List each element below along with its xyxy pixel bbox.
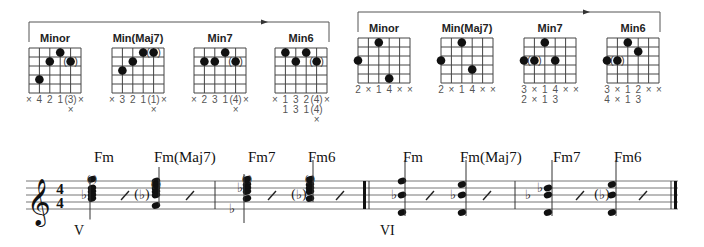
finger-dot: [354, 56, 363, 65]
music-staff: 𝄞44FmFm(Maj7)Fm7Fm6FmFm(Maj7)Fm7Fm6VVI( …: [26, 149, 678, 238]
double-barline: [363, 181, 366, 209]
flat-icon: ♭: [450, 187, 456, 202]
finger-dot: [634, 47, 643, 56]
svg-text:): ): [538, 54, 542, 66]
diagram-title: Min(Maj7): [113, 32, 164, 44]
finger-dot: [129, 57, 138, 66]
fingering-label: 1: [376, 84, 382, 95]
svg-text:): ): [74, 55, 78, 67]
diagram-title: Min6: [288, 32, 313, 44]
fingering-label: ×: [490, 84, 496, 95]
fingering-label: ×: [161, 94, 167, 105]
fingering-label: 3: [293, 104, 299, 115]
finger-dot: [551, 56, 560, 65]
fingering-label: ×: [656, 84, 662, 95]
bracket-1: [29, 20, 329, 43]
svg-text:(: (: [610, 54, 614, 66]
fingering-label: 2: [202, 94, 208, 105]
finger-dot: [375, 38, 384, 47]
svg-text:): ): [621, 54, 625, 66]
finger-dot: [541, 38, 550, 47]
fingering-label: 1: [222, 94, 228, 105]
chord-diagram-min6: Min6()3×12××4×13: [603, 22, 662, 105]
svg-text:): ): [239, 55, 243, 67]
svg-text:): ): [157, 46, 161, 58]
chord-symbol: Fm: [94, 149, 114, 165]
fingering-label: 3: [635, 94, 641, 105]
fingering-label: 4: [469, 84, 475, 95]
finger-dot: [292, 57, 301, 66]
fingering-label: ×: [531, 94, 537, 105]
fingering-label: ×: [233, 104, 239, 115]
fingering-label: ×: [26, 94, 32, 105]
svg-text:(: (: [309, 55, 313, 67]
svg-text:( ): ( ): [151, 177, 161, 190]
chord-diagram-minor: Minor2×14××: [354, 22, 413, 95]
fingering-label: 3: [552, 94, 558, 105]
finger-dot: [624, 38, 633, 47]
fingering-label: ×: [614, 94, 620, 105]
flat-icon: (♭): [594, 187, 610, 202]
fingering-label: 4: [604, 94, 610, 105]
fingering-label: 2: [47, 94, 53, 105]
fingering-label: ×: [563, 84, 569, 95]
bracket-2: [358, 10, 660, 33]
fingering-label: 1: [459, 84, 465, 95]
svg-text:(: (: [527, 54, 531, 66]
fingering-label: ×: [646, 84, 652, 95]
flat-icon: (♭): [134, 187, 150, 202]
fingering-label: 1: [283, 104, 289, 115]
chord-symbol: Fm7: [553, 149, 581, 165]
finger-dot: [281, 48, 290, 57]
chord-chart: Minor()×421(3)××Min(Maj7)()×321(1)××Min7…: [0, 0, 704, 247]
arrow-right-icon: [261, 20, 268, 25]
flat-icon: ♭: [537, 180, 543, 195]
fingering-label: 1: [57, 94, 63, 105]
finger-dot: [468, 65, 477, 74]
chord-symbol: Fm6: [308, 149, 336, 165]
flat-icon: ♭: [237, 180, 243, 195]
chord-symbol: Fm(Maj7): [460, 149, 522, 166]
flat-icon: ♭: [229, 201, 235, 216]
fingering-label: 1: [542, 94, 548, 105]
svg-text:(: (: [63, 55, 67, 67]
chord-diagram-minor: Minor()×421(3)××: [26, 32, 84, 115]
fingering-label: 1: [140, 94, 146, 105]
diagram-title: Minor: [40, 32, 71, 44]
finger-dot: [118, 66, 127, 75]
position-label: V: [74, 223, 84, 238]
fingering-label: 4: [386, 84, 392, 95]
fingering-label: ×: [68, 104, 74, 115]
fingering-label: ×: [272, 94, 278, 105]
diagram-title: Min7: [537, 22, 562, 34]
svg-text:( ): ( ): [305, 172, 315, 185]
chord-symbol: Fm(Maj7): [154, 149, 216, 166]
position-label: VI: [380, 223, 395, 238]
fingering-label: ×: [243, 94, 249, 105]
svg-text:(: (: [228, 55, 232, 67]
fingering-label: ×: [78, 94, 84, 105]
fingering-label: 2: [521, 94, 527, 105]
svg-text:): ): [320, 55, 324, 67]
fingering-label: 1: [625, 94, 631, 105]
chord-symbol: Fm7: [248, 149, 276, 165]
fingering-label: ×: [191, 94, 197, 105]
fingering-label: 4: [37, 94, 43, 105]
flat-icon: (♭): [291, 187, 307, 202]
svg-text:( ): ( ): [87, 172, 97, 185]
fingering-label: 1: [303, 104, 309, 115]
chord-symbol: Fm: [403, 149, 423, 165]
diagram-title: Minor: [369, 22, 400, 34]
treble-clef-icon: 𝄞: [27, 178, 51, 227]
chord-diagram-min6: Min6()×132(4)×131(4)×: [272, 32, 330, 125]
fingering-label: ×: [314, 114, 320, 125]
fingering-label: 2: [130, 94, 136, 105]
finger-dot: [437, 56, 446, 65]
chord-diagram-min7: Min7()×231(4)××: [191, 32, 249, 115]
chord-diagram-min-maj7-: Min(Maj7)2×14××: [437, 22, 496, 95]
fingering-label: ×: [365, 84, 371, 95]
fingering-label: 3: [212, 94, 218, 105]
fingering-label: 2: [355, 84, 361, 95]
diagram-title: Min(Maj7): [442, 22, 493, 34]
chord-diagrams: Minor()×421(3)××Min(Maj7)()×321(1)××Min7…: [26, 22, 662, 125]
